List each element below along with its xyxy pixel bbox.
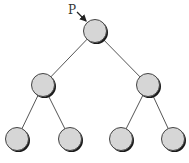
node-left <box>32 74 57 99</box>
node-root <box>84 20 109 45</box>
node-left-right <box>59 128 84 153</box>
node-left-left <box>6 128 31 153</box>
node-right-right <box>162 128 187 153</box>
node-right-left <box>110 128 135 153</box>
pointer-label: P <box>68 3 76 17</box>
node-right <box>137 74 162 99</box>
pointer-arrow <box>77 12 86 21</box>
binary-tree-diagram: P <box>0 0 189 163</box>
